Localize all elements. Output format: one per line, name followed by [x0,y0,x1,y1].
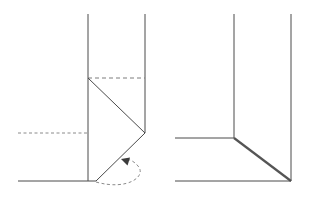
fold-arrow-head-icon [121,158,130,166]
left-panel-diagonal-lower [96,133,145,181]
left-panel-diagonal-upper [88,78,145,133]
fold-diagram [0,0,317,200]
diagram-canvas [0,0,317,200]
fold-in-progress-panel [18,14,145,185]
left-panel-fold-motion-arrow [96,159,140,184]
right-panel-folded-edge-diagonal [234,138,291,181]
completed-fold-panel [175,14,291,181]
